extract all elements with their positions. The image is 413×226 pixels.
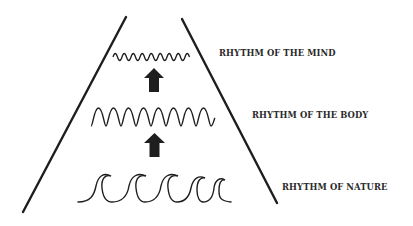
- body-wave-line: [91, 108, 215, 126]
- label-rhythm-of-the-mind: RHYTHM OF THE MIND: [219, 48, 336, 58]
- mind-wave-icon: [113, 54, 190, 61]
- label-rhythm-of-the-body: RHYTHM OF THE BODY: [252, 110, 368, 120]
- rhythm-pyramid-diagram: RHYTHM OF THE MIND RHYTHM OF THE BODY RH…: [0, 0, 413, 226]
- nature-wave-icon: [78, 174, 231, 202]
- pyramid-left-edge: [23, 17, 126, 212]
- arrow-up-icon: [144, 68, 164, 92]
- arrow-up-icon: [144, 133, 165, 157]
- label-rhythm-of-nature: RHYTHM OF NATURE: [282, 182, 388, 192]
